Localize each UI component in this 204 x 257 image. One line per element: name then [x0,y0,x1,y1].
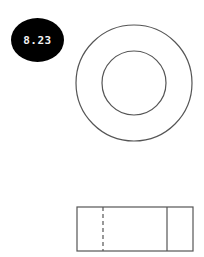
technical-drawing [0,0,204,257]
front-view [77,207,193,251]
front-view-outline [77,207,193,251]
outer-circle [76,25,192,141]
inner-circle [102,51,166,115]
top-view [76,25,192,141]
